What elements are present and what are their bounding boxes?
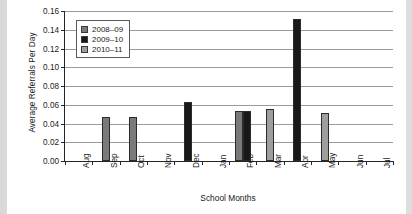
y-tick-mark: [61, 30, 65, 31]
x-tick-label-sep: Sep: [110, 153, 119, 168]
bar-oct-2008-09: [129, 117, 137, 161]
y-tick-label: 0.14: [43, 25, 59, 34]
y-tick-label: 0.08: [43, 82, 59, 91]
y-tick-mark: [61, 105, 65, 106]
y-tick-mark: [61, 142, 65, 143]
legend-swatch-icon: [81, 26, 88, 33]
legend-label: 2009–10: [92, 35, 123, 44]
legend-label: 2008–09: [92, 25, 123, 34]
legend-item: 2010–11: [81, 44, 123, 54]
y-tick-label: 0.00: [43, 157, 59, 166]
x-tick-mark: [92, 161, 93, 165]
x-tick-mark: [284, 161, 285, 165]
x-tick-label-dec: Dec: [192, 153, 201, 168]
bar-feb-2009-10: [243, 111, 251, 161]
x-tick-mark: [120, 161, 121, 165]
gridline: [65, 105, 393, 106]
x-axis-title: School Months: [64, 193, 392, 203]
bar-may-2010-11: [321, 113, 329, 161]
y-tick-label: 0.02: [43, 138, 59, 147]
legend-swatch-icon: [81, 36, 88, 43]
y-tick-mark: [61, 124, 65, 125]
y-axis-tick-labels: 0.160.140.120.100.080.060.040.020.00: [29, 11, 59, 161]
legend-swatch-icon: [81, 46, 88, 53]
bar-sep-2008-09: [102, 117, 110, 161]
x-tick-mark: [393, 161, 394, 165]
x-tick-mark: [311, 161, 312, 165]
x-tick-mark: [174, 161, 175, 165]
x-tick-label-jan: Jan: [219, 155, 228, 168]
x-tick-label-jun: Jun: [356, 155, 365, 168]
y-tick-label: 0.04: [43, 119, 59, 128]
x-tick-mark: [366, 161, 367, 165]
bar-feb-2008-09: [235, 111, 243, 161]
bar-mar-2010-11: [266, 109, 274, 162]
gridline: [65, 86, 393, 87]
x-tick-mark: [229, 161, 230, 165]
x-tick-mark: [256, 161, 257, 165]
x-tick-label-jul: Jul: [383, 158, 392, 168]
gridline: [65, 142, 393, 143]
y-tick-mark: [61, 49, 65, 50]
legend-item: 2009–10: [81, 34, 123, 44]
y-tick-label: 0.10: [43, 63, 59, 72]
gridline: [65, 67, 393, 68]
x-tick-mark: [202, 161, 203, 165]
gridline: [65, 11, 393, 12]
x-tick-label-oct: Oct: [137, 155, 146, 168]
x-tick-label-mar: Mar: [274, 154, 283, 168]
x-tick-mark: [338, 161, 339, 165]
y-tick-mark: [61, 86, 65, 87]
bar-dec-2009-10: [184, 102, 192, 161]
y-tick-mark: [61, 11, 65, 12]
y-tick-mark: [61, 67, 65, 68]
x-tick-label-apr: Apr: [301, 155, 310, 168]
legend-label: 2010–11: [92, 45, 123, 54]
chart-legend: 2008–092009–102010–11: [76, 20, 130, 58]
bar-chart: Average Referrals Per Day 0.160.140.120.…: [9, 0, 403, 214]
x-tick-label-aug: Aug: [82, 153, 91, 168]
bar-apr-2009-10: [293, 19, 301, 161]
page-background: Average Referrals Per Day 0.160.140.120.…: [0, 0, 412, 214]
left-edge-artifact: [0, 0, 7, 214]
x-tick-mark: [65, 161, 66, 165]
x-tick-label-may: May: [328, 153, 337, 168]
y-tick-label: 0.06: [43, 100, 59, 109]
y-tick-label: 0.12: [43, 44, 59, 53]
x-tick-mark: [147, 161, 148, 165]
legend-item: 2008–09: [81, 24, 123, 34]
y-tick-label: 0.16: [43, 7, 59, 16]
gridline: [65, 124, 393, 125]
right-edge-artifact: [406, 0, 412, 214]
x-tick-label-nov: Nov: [164, 153, 173, 168]
